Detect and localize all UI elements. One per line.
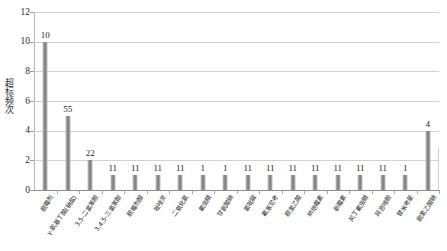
x-axis-category-text: 氯吡脲 <box>241 194 257 213</box>
y-axis-tick-label: 0 <box>8 186 30 195</box>
bar[interactable] <box>43 42 48 190</box>
bar[interactable] <box>223 175 228 190</box>
bar-slot: 11 <box>327 12 349 190</box>
x-axis-category-text: 二氧化氯 <box>170 194 189 218</box>
bar-value-label: 11 <box>356 164 365 173</box>
bar-slot: 11 <box>349 12 371 190</box>
bar[interactable] <box>178 175 183 190</box>
bar-slot: 11 <box>282 12 304 190</box>
bar-slot: 4 <box>417 12 439 190</box>
bar-value-label: 1 <box>403 164 408 173</box>
x-axis-category-text: 吡唑灵 <box>151 194 167 213</box>
bar-slot: 1 <box>394 12 416 190</box>
bar-slot: 1 <box>192 12 214 190</box>
bar-slot: 11 <box>237 12 259 190</box>
y-axis-tick-label: 10 <box>8 37 30 46</box>
x-axis-category-text: 风丁氟虫腈 <box>347 194 370 223</box>
bar[interactable] <box>358 175 363 190</box>
bar-value-label: 4 <box>426 120 431 129</box>
x-axis-category-text: 异恶唑胺 <box>373 194 392 218</box>
x-axis-category-text: 脱氢乙酸 <box>283 194 302 218</box>
bar-slot: 11 <box>169 12 191 190</box>
bar-value-label: 10 <box>41 31 50 40</box>
bar-value-label: 1 <box>223 164 228 173</box>
bar[interactable] <box>268 175 273 190</box>
bar-value-label: 11 <box>333 164 342 173</box>
y-axis-tick-label: 8 <box>8 67 30 76</box>
x-axis-category-text: 脱霉剂醇 <box>125 194 144 218</box>
bar-slot: 11 <box>259 12 281 190</box>
x-axis-category-text: 氟苯尼考 <box>260 194 279 218</box>
bar-value-label: 11 <box>176 164 185 173</box>
y-axis-tick-label: 12 <box>8 8 30 17</box>
bar-value-label: 11 <box>266 164 275 173</box>
bar-slot: 11 <box>147 12 169 190</box>
bar-slot: 1 <box>214 12 236 190</box>
x-axis-category-text: 纳他霉素 <box>305 194 324 218</box>
x-axis-category-text: 替米考星 <box>395 194 414 218</box>
bar-value-label: 22 <box>86 149 95 158</box>
bar[interactable] <box>65 116 70 190</box>
y-axis-tick-label: 4 <box>8 126 30 135</box>
y-axis-tick-label: 6 <box>8 97 30 106</box>
bar-slot: 11 <box>372 12 394 190</box>
bar-chart: 超标频次 024681012 1055221111111111111111111… <box>0 0 447 251</box>
bar-value-label: 1 <box>201 164 206 173</box>
bar-value-label: 11 <box>243 164 252 173</box>
bar-slot: 55 <box>57 12 79 190</box>
x-axis-category-text: 甘氨酸钠 <box>215 194 234 218</box>
bar-value-label: 11 <box>288 164 297 173</box>
y-axis-tick-label: 2 <box>8 156 30 165</box>
bar-slot: 11 <box>304 12 326 190</box>
bar-value-label: 55 <box>63 105 72 114</box>
x-axis-labels: 脱霉剂γ-氨基丁酸(钠盐)3,5-二氯苯胺3,4,5-三氯苯酚脱霉剂醇吡唑灵二氧… <box>34 194 439 251</box>
bar-slot: 11 <box>102 12 124 190</box>
x-axis-category-text: 新霉素 <box>331 194 347 213</box>
bar-value-label: 11 <box>311 164 320 173</box>
x-axis-category-text: 氟虫腈 <box>196 194 212 213</box>
bar-slot: 10 <box>34 12 56 190</box>
bar-value-label: 11 <box>153 164 162 173</box>
x-axis-category-text: 脱霉剂 <box>39 194 55 213</box>
x-axis-category-text: 脱氢乙酸钠 <box>415 194 438 223</box>
